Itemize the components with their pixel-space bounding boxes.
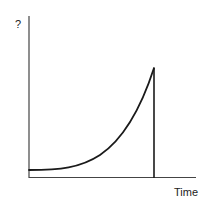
y-axis-label: ?: [15, 18, 21, 30]
x-axis-label: Time: [174, 186, 198, 198]
growth-curve: [29, 68, 154, 170]
chart: ? Time: [0, 0, 211, 206]
